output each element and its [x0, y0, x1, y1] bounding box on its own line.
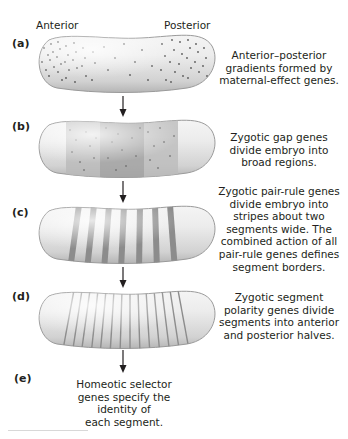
arrow-down-icon [120, 181, 127, 203]
stage-label-a: (a) [12, 37, 29, 50]
caption-a: Anterior–posterior gradients formed by m… [214, 49, 344, 87]
caption-line: combined action of all [212, 235, 346, 248]
arrow-down-icon [120, 96, 127, 117]
caption-c: Zygotic pair-rule genes divide embryo in… [212, 185, 346, 273]
stage-label-d: (d) [12, 290, 30, 303]
caption-line: divide embryo into [214, 144, 344, 157]
caption-line: divide embryo into [212, 198, 346, 211]
caption-line: stripes about two [212, 210, 346, 223]
caption-line: Homeotic selector [68, 378, 180, 391]
arrow-down-icon [120, 267, 127, 288]
caption-line: Zygotic gap genes [214, 131, 344, 144]
posterior-label: Posterior [164, 19, 210, 31]
caption-line: genes specify the [68, 391, 180, 404]
embryo-c [39, 205, 215, 270]
stage-label-e: (e) [14, 372, 32, 385]
caption-line: Zygotic pair-rule genes [212, 185, 346, 198]
anterior-label: Anterior [36, 19, 78, 31]
caption-line: Anterior–posterior [214, 49, 344, 62]
caption-line: maternal-effect genes. [214, 74, 344, 87]
stage-label-b: (b) [12, 120, 30, 133]
caption-line: Zygotic segment [212, 291, 346, 304]
arrow-down-icon [120, 350, 127, 373]
caption-line: segment borders. [212, 261, 346, 274]
caption-line: and posterior halves. [212, 329, 346, 342]
caption-d: Zygotic segment polarity genes divide se… [212, 291, 346, 341]
stage-label-c: (c) [12, 206, 29, 219]
caption-b: Zygotic gap genes divide embryo into bro… [214, 131, 344, 169]
divider [8, 430, 88, 431]
caption-line: segments into anterior [212, 316, 346, 329]
caption-line: each segment. [68, 416, 180, 429]
caption-line: polarity genes divide [212, 304, 346, 317]
caption-line: pair-rule genes defines [212, 248, 346, 261]
caption-line: gradients formed by [214, 62, 344, 75]
embryo-a [39, 35, 215, 92]
embryo-d [39, 290, 215, 355]
embryo-b [39, 115, 215, 185]
caption-e: Homeotic selector genes specify the iden… [68, 378, 180, 428]
caption-line: segments wide. The [212, 223, 346, 236]
caption-line: broad regions. [214, 156, 344, 169]
caption-line: identity of [68, 403, 180, 416]
